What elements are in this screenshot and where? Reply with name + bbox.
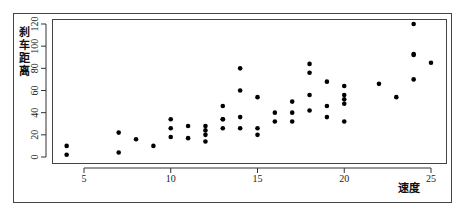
data-point <box>238 66 243 71</box>
data-point <box>134 137 139 142</box>
outer-frame <box>14 14 452 203</box>
plot-box <box>53 20 447 164</box>
data-point <box>64 152 69 157</box>
data-point <box>325 104 330 109</box>
data-point <box>168 135 173 140</box>
data-point <box>221 117 226 122</box>
data-point <box>238 126 243 131</box>
data-point <box>255 133 260 138</box>
data-point <box>342 102 347 107</box>
y-tick-label: 100 <box>29 39 40 54</box>
x-axis: 510152025 <box>82 168 437 184</box>
data-point <box>116 150 121 155</box>
data-point <box>307 93 312 98</box>
x-tick-label: 15 <box>253 173 263 184</box>
svg-text:距: 距 <box>19 52 30 65</box>
data-point <box>221 126 226 131</box>
data-point <box>64 144 69 149</box>
y-tick-label: 60 <box>29 86 40 96</box>
data-point <box>411 52 416 57</box>
data-point <box>290 99 295 104</box>
svg-text:离: 离 <box>19 64 30 78</box>
y-tick-label: 80 <box>29 63 40 73</box>
data-point <box>168 126 173 131</box>
svg-text:车: 车 <box>19 38 30 52</box>
x-tick-label: 5 <box>82 173 87 184</box>
data-point <box>394 95 399 100</box>
data-points <box>64 22 433 157</box>
data-point <box>255 95 260 100</box>
data-point <box>290 110 295 115</box>
data-point <box>203 128 208 133</box>
data-point <box>411 22 416 27</box>
data-point <box>342 97 347 102</box>
y-tick-label: 120 <box>29 17 40 32</box>
data-point <box>203 133 208 138</box>
data-point <box>238 115 243 120</box>
data-point <box>151 144 156 149</box>
svg-text:刹: 刹 <box>19 25 30 39</box>
data-point <box>342 119 347 124</box>
data-point <box>307 108 312 113</box>
data-point <box>325 79 330 84</box>
data-point <box>203 124 208 129</box>
y-tick-label: 40 <box>29 108 40 118</box>
y-tick-label: 20 <box>29 130 40 140</box>
data-point <box>429 60 434 65</box>
x-tick-label: 25 <box>426 173 436 184</box>
data-point <box>377 82 382 87</box>
data-point <box>203 139 208 144</box>
data-point <box>186 136 191 141</box>
data-point <box>273 110 278 115</box>
x-tick-label: 20 <box>339 173 349 184</box>
data-point <box>411 77 416 82</box>
data-point <box>168 117 173 122</box>
data-point <box>325 115 330 120</box>
scatter-chart: 020406080100120 510152025 刹车距离 速度 <box>0 0 462 213</box>
data-point <box>342 93 347 98</box>
data-point <box>290 119 295 124</box>
y-axis-title: 刹车距离 <box>19 25 30 78</box>
data-point <box>342 84 347 89</box>
data-point <box>273 119 278 124</box>
x-axis-title: 速度 <box>398 181 421 195</box>
data-point <box>307 70 312 75</box>
data-point <box>221 104 226 109</box>
y-axis: 020406080100120 <box>29 17 46 160</box>
data-point <box>307 62 312 67</box>
data-point <box>116 130 121 135</box>
data-point <box>255 126 260 131</box>
x-tick-label: 10 <box>166 173 176 184</box>
data-point <box>238 88 243 93</box>
data-point <box>186 124 191 129</box>
y-tick-label: 0 <box>29 155 40 160</box>
